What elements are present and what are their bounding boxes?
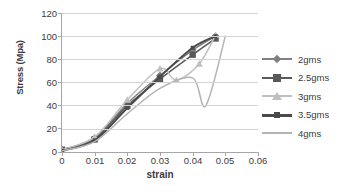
gridline: [62, 105, 258, 106]
y-tick-label: 120: [23, 8, 57, 19]
legend-swatch-icon: [262, 52, 292, 66]
gridline: [62, 129, 258, 130]
series-marker-3.5gms: [125, 106, 129, 110]
gridline: [62, 82, 258, 83]
legend-label: 3.5gms: [292, 109, 329, 120]
legend-label: 2.5gms: [292, 72, 329, 83]
x-tick-label: 0.06: [238, 155, 278, 166]
series-marker-3.5gms: [191, 46, 195, 50]
gridline: [62, 13, 258, 14]
y-tick-label: 100: [23, 31, 57, 42]
legend-swatch-icon: [262, 126, 292, 140]
legend-item-2gms[interactable]: 2gms: [262, 50, 362, 69]
gridline: [62, 36, 258, 37]
chart-legend: 2gms2.5gms3gms3.5gms4gms: [262, 50, 362, 143]
y-tick-label: 40: [23, 100, 57, 111]
series-line-4gms: [62, 36, 225, 151]
legend-item-2.5gms[interactable]: 2.5gms: [262, 69, 362, 88]
series-marker-2.5gms: [189, 52, 195, 58]
legend-item-3.5gms[interactable]: 3.5gms: [262, 106, 362, 125]
legend-item-3gms[interactable]: 3gms: [262, 87, 362, 106]
legend-label: 2gms: [292, 54, 321, 65]
y-tick-label: 60: [23, 77, 57, 88]
x-axis-title: strain: [62, 169, 258, 180]
legend-swatch-icon: [262, 71, 292, 85]
legend-swatch-icon: [262, 108, 292, 122]
legend-item-4gms[interactable]: 4gms: [262, 124, 362, 143]
y-tick-label: 20: [23, 123, 57, 134]
gridline: [62, 59, 258, 60]
legend-label: 4gms: [292, 128, 321, 139]
y-tick-label: 80: [23, 54, 57, 65]
stress-strain-chart: Stress (Mpa) 120 100 80 60 40 20 0 0 0.0…: [0, 0, 362, 194]
legend-swatch-icon: [262, 89, 292, 103]
plot-area: [62, 13, 258, 152]
legend-label: 3gms: [292, 91, 321, 102]
series-marker-3.5gms: [158, 75, 162, 79]
